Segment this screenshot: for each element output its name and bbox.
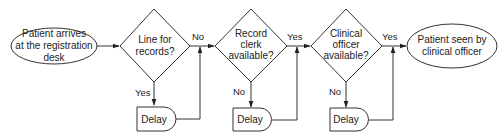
q3-line-2: officer	[332, 39, 360, 50]
q1-line-1: Line for	[138, 34, 172, 45]
end-node-patient-seen: Patient seen by clinical officer	[407, 24, 497, 68]
start-node-line-1: Patient arrives	[22, 28, 86, 39]
q2-no-label: No	[233, 86, 245, 97]
flowchart-canvas: Patient arrives at the registration desk…	[0, 0, 501, 137]
q2-yes-label: Yes	[287, 31, 303, 42]
delay1-label: Delay	[141, 114, 167, 125]
decision-clinical-officer-available: Clinical officer available?	[311, 9, 382, 82]
start-node-line-3: desk	[43, 52, 65, 63]
q3-line-1: Clinical	[330, 28, 362, 39]
edge-delay3-return	[369, 47, 393, 120]
q3-line-3: available?	[323, 50, 368, 61]
edge-delay1-return	[176, 47, 200, 119]
q1-line-2: records?	[136, 46, 175, 57]
delay-node-1: Delay	[137, 107, 176, 131]
q3-no-label: No	[329, 86, 341, 97]
delay-node-3: Delay	[330, 108, 369, 131]
end-node-line-2: clinical officer	[422, 46, 483, 57]
q1-yes-label: Yes	[135, 87, 151, 98]
q3-yes-label: Yes	[382, 31, 398, 42]
q2-line-2: clerk	[240, 39, 262, 50]
start-node-patient-arrives: Patient arrives at the registration desk	[11, 28, 97, 64]
end-node-line-1: Patient seen by	[418, 34, 487, 45]
decision-record-clerk-available: Record clerk available?	[215, 9, 287, 82]
start-node-line-2: at the registration	[15, 40, 92, 51]
q1-no-label: No	[192, 31, 204, 42]
delay3-label: Delay	[333, 114, 359, 125]
q2-line-3: available?	[228, 50, 273, 61]
delay-node-2: Delay	[233, 108, 272, 131]
q2-line-1: Record	[235, 28, 267, 39]
decision-line-for-records: Line for records?	[120, 9, 190, 82]
delay2-label: Delay	[237, 114, 263, 125]
